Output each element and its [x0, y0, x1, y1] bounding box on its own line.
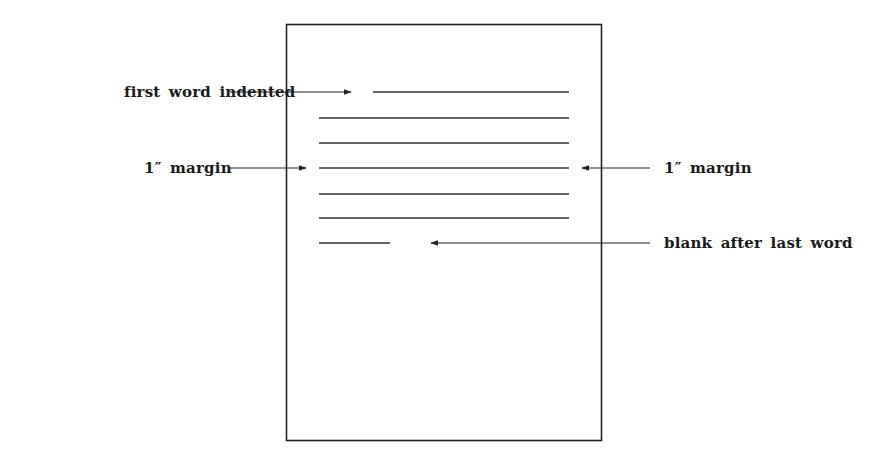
label-blank-after-last-word: blank after last word: [664, 234, 853, 252]
page-outline: [287, 25, 602, 441]
label-first-word-indented: first word indented: [124, 83, 295, 101]
label-right-margin: 1″ margin: [664, 159, 752, 177]
label-left-margin: 1″ margin: [144, 159, 232, 177]
text-lines: [319, 92, 569, 243]
paragraph-format-diagram: first word indented 1″ margin 1″ margin …: [0, 0, 894, 462]
diagram-graphics: [0, 0, 894, 462]
